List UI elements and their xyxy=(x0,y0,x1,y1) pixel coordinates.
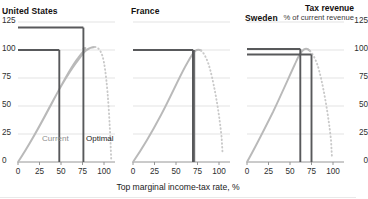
x-tick-label-75-united-states: 75 xyxy=(78,168,87,176)
y-tick-label-50-sweden: 50 xyxy=(359,101,368,109)
plot-panel-united-states: Current Optimal 125 100 75 50 25 0 0 25 … xyxy=(18,22,115,162)
y-tick-label-0-sweden: 0 xyxy=(363,157,368,165)
gridlines-france xyxy=(133,22,230,134)
x-tick-label-25-sweden: 25 xyxy=(264,168,273,176)
panel-title-united-states: United States xyxy=(2,6,58,16)
chart-canvas-france xyxy=(133,22,230,162)
chart-canvas-sweden xyxy=(247,22,344,162)
gridlines-sweden xyxy=(247,22,344,134)
annotation-optimal-united-states: Optimal xyxy=(86,135,114,143)
x-tick-label-50-united-states: 50 xyxy=(56,168,65,176)
x-tick-label-75-sweden: 75 xyxy=(307,168,316,176)
plot-panel-france: 0 25 50 75 100 xyxy=(133,22,230,162)
x-tick-label-0-united-states: 0 xyxy=(16,168,21,176)
value-axis-subtitle: % of current revenue xyxy=(284,13,355,22)
y-tick-label-75-sweden: 75 xyxy=(359,73,368,81)
x-tick-label-0-sweden: 0 xyxy=(245,168,250,176)
x-axis-caption: Top marginal income-tax rate, % xyxy=(0,182,356,192)
annotation-current-united-states: Current xyxy=(42,135,69,143)
bottom-divider xyxy=(0,197,356,198)
value-axis-title: Tax revenue xyxy=(305,3,354,13)
x-tick-label-25-united-states: 25 xyxy=(35,168,44,176)
y-tick-label-100-sweden: 100 xyxy=(354,45,368,53)
y-tick-label-125-united-states: 125 xyxy=(2,17,16,25)
y-tick-label-50-united-states: 50 xyxy=(2,101,11,109)
plot-panel-sweden: 125 100 75 50 25 0 0 25 50 75 100 xyxy=(247,22,344,162)
laffer-curve-dotted-france xyxy=(201,50,223,154)
x-tick-label-100-united-states: 100 xyxy=(97,168,111,176)
y-tick-label-75-united-states: 75 xyxy=(2,73,11,81)
x-tick-label-100-france: 100 xyxy=(212,168,226,176)
y-tick-label-25-united-states: 25 xyxy=(2,129,11,137)
y-tick-label-125-sweden: 125 xyxy=(354,17,368,25)
panel-title-france: France xyxy=(131,6,159,16)
x-tick-label-75-france: 75 xyxy=(193,168,202,176)
x-tick-label-0-france: 0 xyxy=(131,168,136,176)
y-tick-label-25-sweden: 25 xyxy=(359,129,368,137)
x-tick-label-50-france: 50 xyxy=(171,168,180,176)
y-tick-label-100-united-states: 100 xyxy=(2,45,16,53)
laffer-curve-dotted-sweden xyxy=(310,51,332,158)
y-tick-label-0-united-states: 0 xyxy=(2,157,7,165)
x-tick-label-50-sweden: 50 xyxy=(285,168,294,176)
x-tick-label-25-france: 25 xyxy=(150,168,159,176)
x-tick-label-100-sweden: 100 xyxy=(326,168,340,176)
